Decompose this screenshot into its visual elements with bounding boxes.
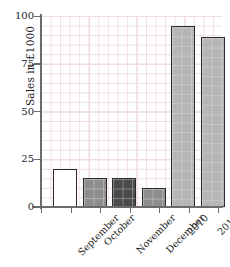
x-tickmark-4 <box>159 207 160 213</box>
bar-december[interactable] <box>142 188 166 207</box>
y-axis-title: Sales in £1000 <box>24 0 36 136</box>
x-tick-label-2010: 2010 <box>185 212 210 237</box>
x-tick-label-2011: 2011 <box>215 212 230 237</box>
bar-2010[interactable] <box>171 26 195 207</box>
bar-2011[interactable] <box>201 37 225 207</box>
x-tickmark-2 <box>100 207 101 213</box>
x-tickmark-0 <box>41 207 42 213</box>
bar-november[interactable] <box>112 178 136 207</box>
x-tickmark-6 <box>218 207 219 213</box>
y-tick-label-25: 25 <box>8 154 34 164</box>
bar-chart: 100 75 50 25 0 Sales in £1000 September … <box>0 0 230 267</box>
bars-layer <box>41 16 222 207</box>
x-axis-line <box>33 206 223 208</box>
y-tickmark-0 <box>34 207 41 208</box>
y-tick-label-0: 0 <box>8 202 34 212</box>
x-tickmark-5 <box>189 207 190 213</box>
bar-october[interactable] <box>83 178 107 207</box>
bar-september[interactable] <box>53 169 77 207</box>
x-tickmark-1 <box>71 207 72 213</box>
y-tickmark-25 <box>34 159 41 160</box>
